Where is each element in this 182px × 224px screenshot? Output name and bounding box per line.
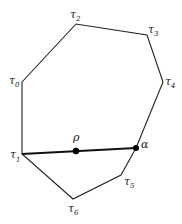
label-tau0: τ0 bbox=[9, 74, 20, 89]
label-tau6: τ6 bbox=[68, 202, 79, 217]
label-alpha: α bbox=[141, 138, 149, 151]
label-rho: ρ bbox=[72, 131, 80, 144]
label-tau1: τ1 bbox=[10, 148, 21, 164]
point-alpha bbox=[133, 145, 139, 151]
polygon-diagram: τ0 τ2 τ3 τ4 τ1 τ6 τ5 ρ α bbox=[0, 0, 182, 224]
label-tau2: τ2 bbox=[70, 8, 81, 23]
label-tau5: τ5 bbox=[124, 175, 135, 190]
label-tau3: τ3 bbox=[148, 23, 159, 38]
polygon-outline bbox=[22, 24, 163, 199]
label-tau4: τ4 bbox=[165, 75, 176, 90]
point-rho bbox=[73, 148, 80, 155]
